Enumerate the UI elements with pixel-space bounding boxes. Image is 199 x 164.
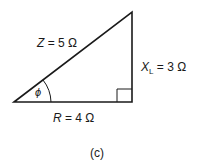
impedance-triangle bbox=[14, 12, 132, 102]
reactance-label: XL = 3 Ω bbox=[141, 61, 186, 76]
hypotenuse-label: Z = 5 Ω bbox=[37, 37, 77, 49]
phase-angle-label: ϕ bbox=[35, 87, 41, 98]
figure-caption: (c) bbox=[90, 147, 104, 159]
right-angle-marker bbox=[117, 89, 132, 102]
triangle-figure bbox=[0, 0, 199, 164]
resistance-label: R = 4 Ω bbox=[53, 112, 94, 124]
angle-arc bbox=[43, 80, 51, 102]
